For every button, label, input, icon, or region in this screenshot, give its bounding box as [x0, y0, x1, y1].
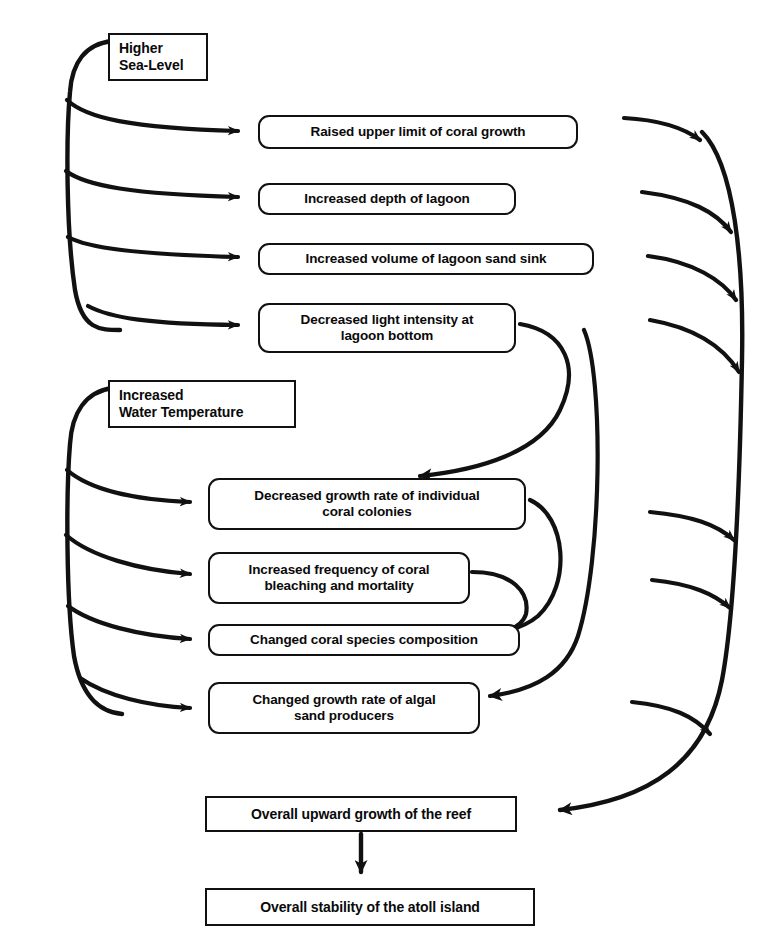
node-changed-growth-rate-of-algal-sand-producers[interactable]: Changed growth rate of algal sand produc… [208, 682, 480, 734]
node-raised-upper-limit-of-coral-growth[interactable]: Raised upper limit of coral growth [258, 115, 578, 149]
node-decreased-light-intensity-at-lagoon-bottom[interactable]: Decreased light intensity at lagoon bott… [258, 303, 516, 353]
node-overall-upward-growth-label: Overall upward growth of the reef [243, 806, 479, 823]
node-changed-coral-species-composition[interactable]: Changed coral species composition [208, 624, 520, 656]
node-increased-water-temperature[interactable]: Increased Water Temperature [108, 380, 296, 428]
edge-group-higher-sea-level [66, 41, 238, 330]
node-increased-depth-of-lagoon[interactable]: Increased depth of lagoon [258, 183, 516, 215]
node-higher-sea-level[interactable]: Higher Sea-Level [108, 33, 208, 81]
node-decreased-light-intensity-label: Decreased light intensity at lagoon bott… [293, 312, 482, 344]
node-raised-upper-limit-label: Raised upper limit of coral growth [303, 124, 534, 140]
node-higher-sea-level-label: Higher Sea-Level [110, 40, 191, 73]
edge-group-increased-water-temperature [66, 388, 190, 714]
node-overall-stability-label: Overall stability of the atoll island [252, 899, 488, 916]
node-increased-water-temperature-label: Increased Water Temperature [110, 387, 251, 420]
diagram-canvas: Higher Sea-Level Raised upper limit of c… [0, 0, 777, 945]
node-decreased-growth-rate-label: Decreased growth rate of individual cora… [246, 488, 487, 520]
node-increased-depth-of-lagoon-label: Increased depth of lagoon [296, 191, 478, 207]
node-increased-volume-of-lagoon-sand-sink-label: Increased volume of lagoon sand sink [298, 251, 555, 267]
node-decreased-growth-rate-of-individual-coral-colonies[interactable]: Decreased growth rate of individual cora… [208, 478, 526, 530]
node-increased-frequency-of-coral-bleaching-and-mortality[interactable]: Increased frequency of coral bleaching a… [208, 552, 470, 604]
node-changed-coral-species-label: Changed coral species composition [242, 632, 486, 648]
node-changed-growth-algal-label: Changed growth rate of algal sand produc… [244, 692, 443, 724]
node-increased-frequency-bleaching-label: Increased frequency of coral bleaching a… [240, 562, 437, 594]
node-overall-upward-growth-of-the-reef[interactable]: Overall upward growth of the reef [205, 796, 517, 832]
node-increased-volume-of-lagoon-sand-sink[interactable]: Increased volume of lagoon sand sink [258, 243, 594, 275]
edge-group-right-trunk [560, 118, 742, 810]
node-overall-stability-of-the-atoll-island[interactable]: Overall stability of the atoll island [205, 888, 535, 926]
